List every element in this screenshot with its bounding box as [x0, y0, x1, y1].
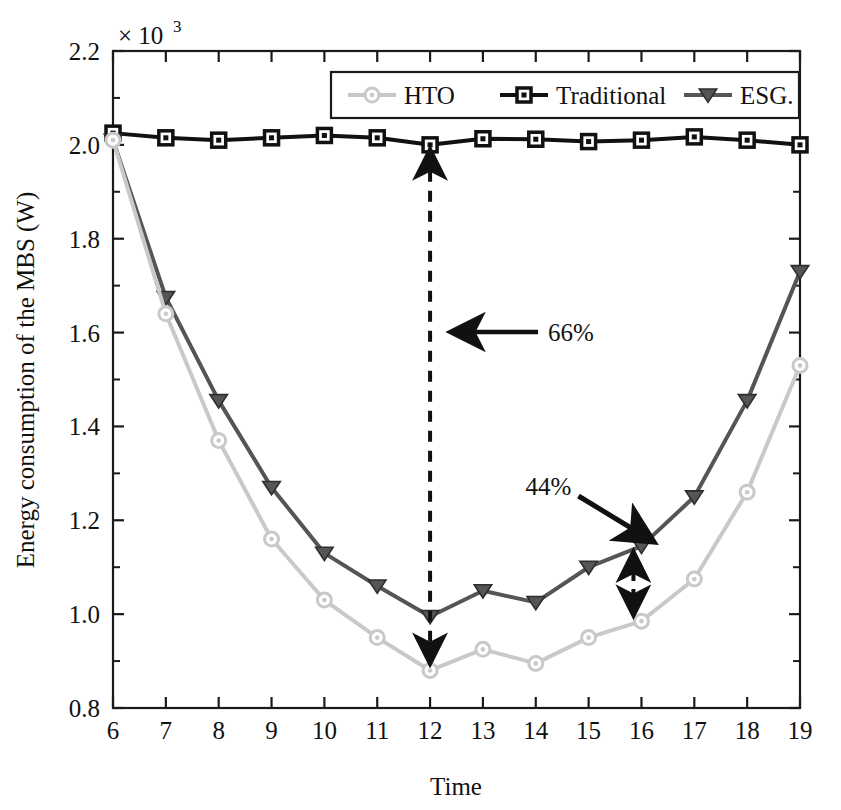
- x-tick-label: 11: [365, 717, 389, 744]
- data-point-marker: [423, 663, 437, 677]
- data-point-marker: [582, 135, 596, 149]
- y-tick-label: 1.8: [69, 226, 100, 253]
- data-point-marker: [687, 130, 701, 144]
- data-point-marker: [370, 631, 384, 645]
- x-tick-label: 7: [160, 717, 173, 744]
- data-point-marker: [634, 133, 648, 147]
- y-tick-label: 0.8: [69, 695, 100, 722]
- data-point-marker: [159, 131, 173, 145]
- data-point-marker: [529, 132, 543, 146]
- data-point-marker: [634, 614, 648, 628]
- x-tick-label: 19: [788, 717, 813, 744]
- chart-legend: HTOTraditionalESG.: [331, 72, 799, 118]
- data-point-marker: [476, 132, 490, 146]
- data-point-marker: [370, 131, 384, 145]
- data-point-marker: [517, 88, 531, 102]
- y-axis-multiplier-base: × 10: [118, 22, 163, 49]
- data-point-marker: [212, 434, 226, 448]
- data-point-marker: [317, 128, 331, 142]
- chart-background: [0, 0, 841, 810]
- data-point-marker: [793, 358, 807, 372]
- x-tick-label: 6: [107, 717, 120, 744]
- x-tick-label: 8: [212, 717, 225, 744]
- y-axis-multiplier-exponent: 3: [173, 17, 182, 36]
- data-point-marker: [740, 485, 754, 499]
- data-point-marker: [159, 307, 173, 321]
- data-point-marker: [106, 133, 120, 147]
- x-tick-label: 14: [523, 717, 549, 744]
- data-point-marker: [687, 572, 701, 586]
- y-tick-label: 1.6: [69, 320, 100, 347]
- x-tick-label: 13: [470, 717, 495, 744]
- x-tick-label: 9: [265, 717, 278, 744]
- data-point-marker: [740, 133, 754, 147]
- data-point-marker: [476, 642, 490, 656]
- y-axis-title: Energy consumption of the MBS (W): [12, 192, 40, 569]
- data-point-marker: [582, 631, 596, 645]
- energy-consumption-line-chart: 678910111213141516171819 0.81.01.21.41.6…: [0, 0, 841, 810]
- x-tick-label: 17: [682, 717, 707, 744]
- data-point-marker: [317, 593, 331, 607]
- chart-figure: 678910111213141516171819 0.81.01.21.41.6…: [0, 0, 841, 810]
- data-point-marker: [265, 532, 279, 546]
- data-point-marker: [423, 138, 437, 152]
- y-tick-label: 1.0: [69, 601, 100, 628]
- annotation-66-label: 66%: [548, 319, 594, 346]
- x-tick-label: 12: [418, 717, 443, 744]
- x-tick-label: 18: [735, 717, 760, 744]
- x-tick-label: 10: [312, 717, 337, 744]
- data-point-marker: [265, 131, 279, 145]
- data-point-marker: [529, 656, 543, 670]
- x-tick-label: 16: [629, 717, 654, 744]
- y-tick-label: 2.0: [69, 132, 100, 159]
- y-tick-label: 1.4: [69, 413, 101, 440]
- data-point-marker: [365, 88, 379, 102]
- y-tick-label: 1.2: [69, 507, 100, 534]
- y-tick-label: 2.2: [69, 38, 100, 65]
- data-point-marker: [212, 133, 226, 147]
- annotation-44-label: 44%: [525, 473, 571, 500]
- data-point-marker: [793, 138, 807, 152]
- x-axis-title: Time: [430, 773, 482, 800]
- legend-label: HTO: [404, 82, 455, 109]
- x-tick-label: 15: [576, 717, 601, 744]
- legend-label: Traditional: [556, 82, 666, 109]
- legend-label: ESG.: [740, 82, 793, 109]
